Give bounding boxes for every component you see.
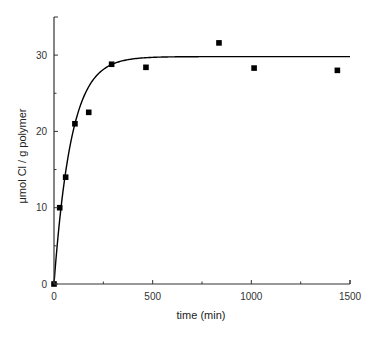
- axis-ticks: [54, 55, 350, 284]
- x-axis-title: time (min): [177, 309, 226, 321]
- data-point: [109, 61, 115, 67]
- y-tick-label-0: 0: [41, 279, 47, 290]
- x-tick-label-1500: 1500: [339, 291, 362, 302]
- x-tick-label-1000: 1000: [240, 291, 263, 302]
- y-tick-label-20: 20: [36, 126, 48, 137]
- data-point: [335, 68, 341, 74]
- data-point: [63, 174, 69, 180]
- x-tick-label-0: 0: [51, 291, 57, 302]
- y-tick-label-30: 30: [36, 50, 48, 61]
- chart: 0 500 1000 1500 0 10 20 30 time (min) μm…: [0, 0, 376, 337]
- y-tick-label-10: 10: [36, 202, 48, 213]
- plot-area: [51, 40, 350, 287]
- data-point: [72, 121, 78, 127]
- data-point: [251, 65, 257, 71]
- y-axis-title: μmol Cl / g polymer: [16, 108, 28, 203]
- data-point: [86, 110, 92, 116]
- data-point: [143, 65, 149, 71]
- x-tick-label-500: 500: [144, 291, 161, 302]
- data-point: [216, 40, 222, 46]
- fit-curve: [54, 57, 350, 284]
